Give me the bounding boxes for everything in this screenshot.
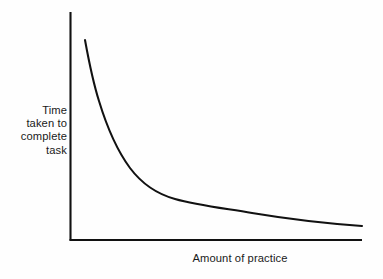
y-axis-label: Time taken to complete task xyxy=(0,104,67,157)
x-axis-label: Amount of practice xyxy=(155,252,325,265)
y-axis-label-line-2: taken to xyxy=(0,117,67,130)
learning-curve-figure: Time taken to complete task Amount of pr… xyxy=(0,0,383,279)
y-axis-label-line-3: complete xyxy=(0,130,67,143)
y-axis-label-line-4: task xyxy=(0,144,67,157)
learning-curve-path xyxy=(85,40,362,226)
y-axis-label-line-1: Time xyxy=(0,104,67,117)
